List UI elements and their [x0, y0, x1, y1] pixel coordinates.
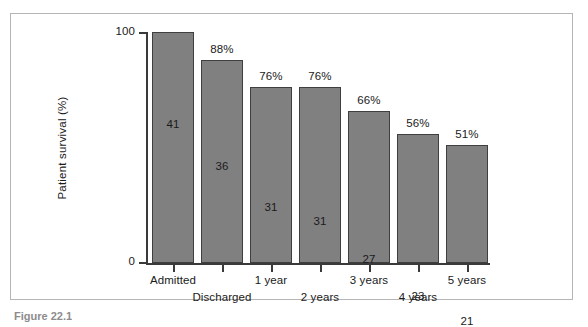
bar-2-years: [299, 87, 341, 263]
bar-percent-label-5: 56%: [389, 117, 447, 129]
bar-percent-label-6: 51%: [438, 128, 496, 140]
y-axis-tick-0: [139, 262, 146, 264]
x-axis-tick-0: [173, 265, 175, 272]
x-axis-label-discharged: Discharged: [179, 291, 265, 303]
bar-count-label-0: 41: [144, 118, 202, 130]
x-axis-tick-5: [418, 265, 420, 272]
x-axis-tick-2: [271, 265, 273, 272]
bar-percent-label-4: 66%: [340, 94, 398, 106]
bar-count-label-4: 27: [340, 253, 398, 265]
bar-3-years: [348, 111, 390, 263]
bar-count-label-2: 31: [242, 201, 300, 213]
bar-percent-label-1: 88%: [193, 43, 251, 55]
y-axis-tick-label-100: 100: [101, 25, 135, 37]
x-axis-label-3-years: 3 years: [326, 274, 412, 286]
y-axis-line: [146, 32, 148, 264]
bar-4-years: [397, 134, 439, 263]
bar-percent-label-3: 76%: [291, 70, 349, 82]
x-axis-label-admitted: Admitted: [130, 274, 216, 286]
x-axis-label-1-year: 1 year: [228, 274, 314, 286]
x-axis-tick-6: [467, 265, 469, 272]
bar-5-years: [446, 145, 488, 263]
bar-count-label-1: 36: [193, 160, 251, 172]
y-axis-title: Patient survival (%): [56, 42, 68, 254]
x-axis-label-4-years: 4 years: [375, 291, 461, 303]
bar-count-label-3: 31: [291, 215, 349, 227]
x-axis-label-5-years: 5 years: [424, 274, 510, 286]
x-axis-tick-4: [369, 265, 371, 272]
bar-count-label-6: 21: [438, 315, 496, 327]
x-axis-tick-3: [320, 265, 322, 272]
y-axis-tick-label-0: 0: [101, 255, 135, 267]
x-axis-line: [146, 263, 490, 265]
y-axis-tick-100: [139, 32, 146, 34]
x-axis-label-2-years: 2 years: [277, 291, 363, 303]
bar-1-year: [250, 87, 292, 263]
bar-admitted: [152, 32, 194, 263]
figure-caption: Figure 22.1: [14, 310, 72, 323]
x-axis-tick-1: [222, 265, 224, 272]
